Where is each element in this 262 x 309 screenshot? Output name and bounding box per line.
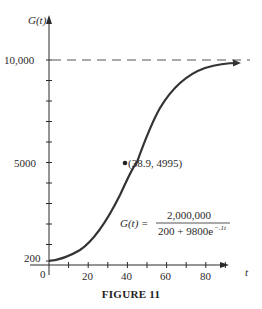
formula-denominator: 200 + 9800e [158, 225, 213, 237]
x-tick-label-40: 40 [121, 270, 133, 282]
point-label: (38.9, 4995) [128, 157, 182, 170]
y-axis-label: G(t) [28, 14, 47, 27]
x-axis-label: t [245, 266, 249, 278]
figure-caption: FIGURE 11 [0, 288, 262, 300]
formula-numerator: 2,000,000 [167, 209, 212, 221]
y-axis-arrow-icon [46, 15, 52, 24]
y-tick-label-200: 200 [24, 252, 41, 264]
formula-exponent: −.1t [214, 224, 227, 232]
y-tick-label-10000: 10,000 [4, 54, 35, 66]
y-tick-label-5000: 5000 [14, 157, 37, 169]
curve-arrow-icon [233, 60, 241, 67]
x-tick-label-60: 60 [160, 270, 172, 282]
x-tick-label-0: 0 [40, 268, 46, 280]
formula-lhs: G(t) = [120, 217, 149, 230]
x-axis-arrow-icon [220, 262, 229, 268]
x-tick-label-20: 20 [82, 270, 94, 282]
inflection-point [123, 161, 128, 166]
logistic-chart: G(t) 10,000 5000 200 0 20 40 60 80 t (38… [0, 0, 262, 309]
x-tick-label-80: 80 [200, 270, 212, 282]
